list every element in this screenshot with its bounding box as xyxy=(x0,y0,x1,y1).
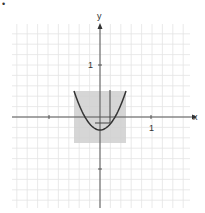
x-axis-label: x xyxy=(193,112,198,122)
figure-marker: • xyxy=(2,0,5,9)
y-tick-label-1: 1 xyxy=(88,60,93,70)
graph: • x y 1 1 xyxy=(0,0,205,213)
x-tick-label-1: 1 xyxy=(149,123,154,133)
y-axis-label: y xyxy=(97,11,102,21)
y-axis-arrow-icon xyxy=(98,23,103,29)
